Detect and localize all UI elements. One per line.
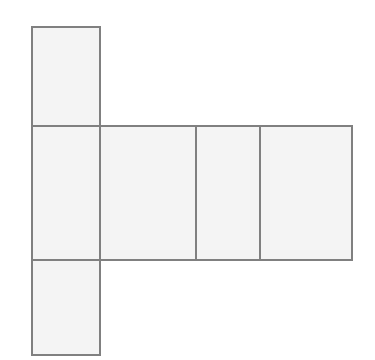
net-face-back-panel (260, 126, 352, 260)
net-face-bottom-flap (32, 260, 100, 355)
net-face-top-flap (32, 27, 100, 126)
net-face-left-panel (32, 126, 100, 260)
net-diagram (0, 0, 375, 360)
figure-canvas (0, 0, 375, 360)
net-face-right-panel (196, 126, 260, 260)
net-face-front-panel (100, 126, 196, 260)
